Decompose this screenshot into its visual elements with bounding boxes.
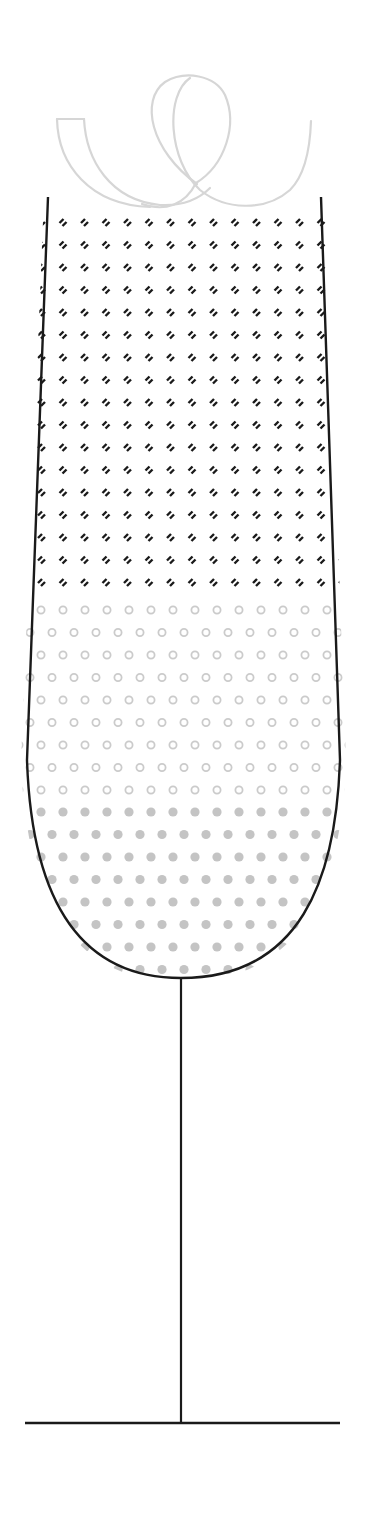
ribbon-swirl-icon [57, 76, 311, 208]
glass-bowl-outline [27, 197, 340, 978]
rings-layer [4, 606, 352, 793]
dots-layer [3, 807, 353, 974]
champagne-flute-illustration [0, 0, 369, 1528]
dashes-layer [17, 219, 347, 586]
illustration-svg [0, 0, 369, 1528]
bubble-pattern [3, 219, 353, 974]
